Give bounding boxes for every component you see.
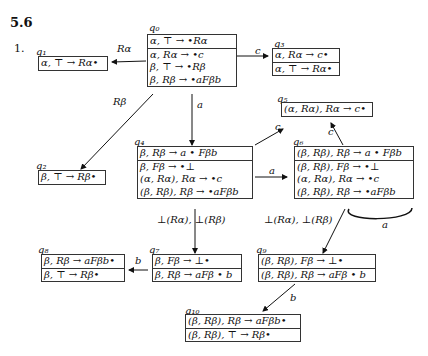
state-label: q₀ [149, 23, 159, 33]
edge-label-q0-q2: Rβ [113, 97, 126, 107]
edge-label-q7-q8: b [135, 256, 141, 266]
edge-label-q0-q3: c [255, 46, 261, 56]
closure-item: (β, Rβ), Rβ → •aFβb [295, 186, 413, 199]
closure-item: β, Rβ → aFβ • b [153, 269, 241, 282]
closure-item: (β, Rβ), Fβ → •⊥ [295, 161, 413, 174]
edge-label-q4-q6: a [269, 166, 275, 176]
state-box: (β, Rβ), Rβ → a • Fβb (β, Rβ), Fβ → •⊥ (… [294, 146, 414, 199]
closure-item: β, Fβ → •⊥ [138, 161, 252, 174]
closure-item: β, Rβ → •aFβb [148, 74, 236, 87]
kernel-item: (β, Rβ), Rβ → aFβb• [186, 315, 300, 329]
edge-label-q0-q1: Rα [117, 44, 131, 54]
kernel-item: (β, Rβ), Fβ → ⊥• [259, 255, 375, 269]
closure-item: (α, Rα), Rα → •c [138, 173, 252, 186]
kernel-item: (α, Rα), Rα → c• [282, 103, 372, 116]
edge-label-q0-q4: a [197, 100, 203, 110]
edge-label-q6-q9: ⊥(Rα), ⊥(Rβ) [264, 215, 332, 225]
closure-item: (α, Rα), Rα → •c [295, 173, 413, 186]
state-box: α, Rα → c• α, ⊤ → Rα• [272, 48, 340, 76]
kernel-item: β, Rβ → aFβb• [42, 255, 124, 269]
kernel-item: β, ⊤ → Rβ• [39, 171, 105, 184]
closure-item: (β, Rβ), Rβ → •aFβb [138, 186, 252, 199]
state-box: (β, Rβ), Fβ → ⊥• (β, Rβ), Rβ → aFβ • b [258, 254, 376, 282]
edge-label-q4-q7: ⊥(Rα), ⊥(Rβ) [157, 215, 225, 225]
closure-item: β, ⊤ → Rβ• [42, 269, 124, 282]
edge-q6-self [348, 208, 412, 219]
edge-q0-q1 [112, 61, 146, 62]
closure-item: α, Rα → •c [148, 49, 236, 62]
state-box: β, Fβ → ⊥• β, Rβ → aFβ • b [152, 254, 242, 282]
state-box: α, ⊤ → Rα• [38, 56, 108, 71]
edge-label-q6-self: a [382, 220, 388, 230]
state-box: β, Rβ → aFβb• β, ⊤ → Rβ• [41, 254, 125, 282]
kernel-item: α, ⊤ → Rα• [39, 57, 107, 70]
state-box: β, Rβ → a • Fβb β, Fβ → •⊥ (α, Rα), Rα →… [137, 146, 253, 199]
kernel-item: α, Rα → c• [273, 49, 339, 63]
kernel-item: β, Fβ → ⊥• [153, 255, 241, 269]
kernel-item: (β, Rβ), Rβ → a • Fβb [295, 147, 413, 161]
state-box: β, ⊤ → Rβ• [38, 170, 106, 185]
edge-label-q6-q5: c [328, 127, 334, 137]
edge-label-q4-q5: c [275, 122, 281, 132]
closure-item: β, ⊤ → •Rβ [148, 61, 236, 74]
state-box: (α, Rα), Rα → c• [281, 102, 373, 117]
closure-item: (β, Rβ), Rβ → aFβ • b [259, 269, 375, 282]
state-box: α, ⊤ → •Rα α, Rα → •c β, ⊤ → •Rβ β, Rβ →… [147, 34, 237, 87]
edge-label-q9-q10: b [290, 293, 296, 303]
state-box: (β, Rβ), Rβ → aFβb• (β, Rβ), ⊤ → Rβ• [185, 314, 301, 342]
closure-item: (β, Rβ), ⊤ → Rβ• [186, 329, 300, 342]
kernel-item: α, ⊤ → •Rα [148, 35, 236, 49]
closure-item: α, ⊤ → Rα• [273, 63, 339, 76]
kernel-item: β, Rβ → a • Fβb [138, 147, 252, 161]
